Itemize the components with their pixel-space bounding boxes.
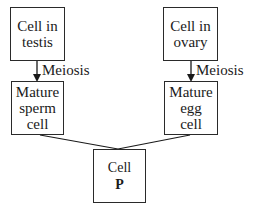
node-cell-in-ovary: Cell in ovary (163, 7, 218, 61)
node-label: Cell in testis (17, 18, 57, 50)
node-label-top: Cell (108, 160, 131, 175)
line-sperm-to-p (40, 135, 118, 149)
node-cell-in-testis: Cell in testis (10, 7, 65, 61)
fertilization-diagram: Cell in testis Cell in ovary Mature sper… (0, 0, 253, 209)
edge-label-meiosis-right: Meiosis (196, 63, 244, 78)
node-label-bold: P (108, 176, 131, 193)
node-mature-sperm-cell: Mature sperm cell (11, 81, 64, 135)
node-label: Cell P (108, 142, 131, 209)
node-cell-p: Cell P (93, 149, 146, 203)
node-mature-egg-cell: Mature egg cell (164, 81, 218, 135)
node-label: Mature sperm cell (16, 84, 59, 132)
edge-label-meiosis-left: Meiosis (42, 63, 90, 78)
node-label: Mature egg cell (169, 84, 212, 132)
node-label: Cell in ovary (170, 18, 210, 50)
